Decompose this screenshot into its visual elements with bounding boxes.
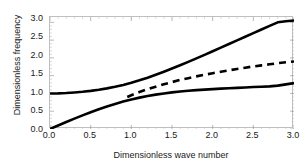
y-tick-label: 1.5 (30, 69, 43, 78)
x-tick-label: 2.0 (205, 131, 218, 140)
x-axis-tick-labels: 0.0 0.5 1.0 1.5 2.0 2.5 3.0 (0, 131, 308, 145)
y-tick-label: 1.0 (30, 88, 43, 97)
x-axis-title: Dimensionless wave number (49, 150, 293, 160)
x-tick-label: 2.5 (246, 131, 259, 140)
x-tick-label: 1.5 (165, 131, 178, 140)
x-tick-label: 1.0 (124, 131, 137, 140)
axis-ticks (50, 17, 294, 129)
dispersion-chart-figure: 3.0 2.5 2.0 1.5 1.0 0.5 0.0 Dimensionles… (0, 0, 308, 168)
curve-upper-branch (50, 21, 294, 94)
x-tick-label: 0.5 (83, 131, 96, 140)
y-axis-title: Dimensionless frequency (12, 1, 22, 129)
y-tick-label: 0.5 (30, 106, 43, 115)
y-tick-label: 2.0 (30, 51, 43, 60)
x-tick-label: 0.0 (43, 131, 56, 140)
x-tick-label: 3.0 (287, 131, 300, 140)
plot-svg (50, 17, 294, 129)
y-tick-label: 2.5 (30, 32, 43, 41)
plot-area (49, 16, 293, 128)
y-tick-label: 3.0 (30, 14, 43, 23)
curve-middle-branch-dashed (127, 61, 294, 97)
